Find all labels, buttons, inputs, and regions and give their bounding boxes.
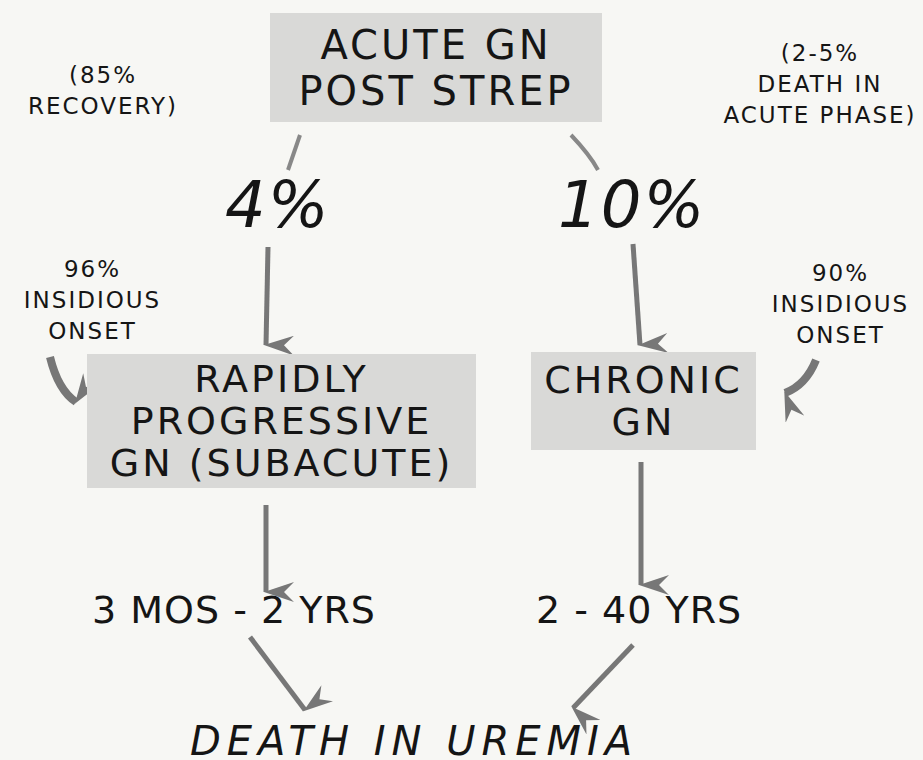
right-onset-line-2: INSIDIOUS bbox=[753, 289, 923, 320]
rapidly-progressive-gn-box: RAPIDLY PROGRESSIVE GN (SUBACUTE) bbox=[87, 354, 476, 488]
rp-duration: 3 MOS - 2 YRS bbox=[92, 588, 376, 632]
recovery-note-line-1: (85% bbox=[8, 60, 198, 91]
chronic-gn-box: CHRONIC GN bbox=[531, 352, 756, 450]
acute-gn-line-2: POST STREP bbox=[298, 68, 573, 114]
right-onset-pct: 90% bbox=[753, 258, 923, 289]
rp-line-1: RAPIDLY bbox=[194, 358, 369, 400]
acute-death-note-line-1: (2-5% bbox=[715, 38, 923, 69]
recovery-note-line-2: RECOVERY) bbox=[8, 91, 198, 122]
connector-left-top bbox=[288, 135, 300, 170]
chronic-duration: 2 - 40 YRS bbox=[536, 588, 742, 632]
rp-percentage: 4% bbox=[225, 168, 331, 242]
chronic-percentage: 10% bbox=[558, 168, 706, 242]
acute-death-note-line-2: DEATH IN bbox=[715, 69, 923, 100]
recovery-note: (85% RECOVERY) bbox=[8, 60, 198, 122]
left-onset-note: 96% INSIDIOUS ONSET bbox=[0, 254, 185, 347]
right-onset-line-3: ONSET bbox=[753, 320, 923, 351]
chronic-line-2: GN bbox=[612, 401, 676, 443]
arrow-left-outcome bbox=[250, 637, 305, 710]
right-onset-note: 90% INSIDIOUS ONSET bbox=[753, 258, 923, 351]
arrow-right-onset bbox=[785, 360, 816, 393]
arrow-left-onset bbox=[50, 357, 76, 402]
rp-line-3: GN (SUBACUTE) bbox=[110, 442, 454, 484]
left-onset-line-3: ONSET bbox=[0, 316, 185, 347]
acute-gn-box: ACUTE GN POST STREP bbox=[270, 13, 602, 122]
left-onset-line-2: INSIDIOUS bbox=[0, 285, 185, 316]
connector-right-top bbox=[571, 135, 598, 170]
outcome-label: DEATH IN UREMIA bbox=[190, 718, 638, 760]
arrow-to-rp bbox=[266, 247, 268, 345]
rp-line-2: PROGRESSIVE bbox=[131, 400, 433, 442]
arrow-to-chronic bbox=[633, 244, 640, 345]
acute-death-note: (2-5% DEATH IN ACUTE PHASE) bbox=[715, 38, 923, 131]
acute-death-note-line-3: ACUTE PHASE) bbox=[715, 100, 923, 131]
acute-gn-line-1: ACUTE GN bbox=[320, 22, 551, 68]
arrow-right-outcome bbox=[573, 645, 633, 708]
chronic-line-1: CHRONIC bbox=[544, 359, 743, 401]
left-onset-pct: 96% bbox=[0, 254, 185, 285]
